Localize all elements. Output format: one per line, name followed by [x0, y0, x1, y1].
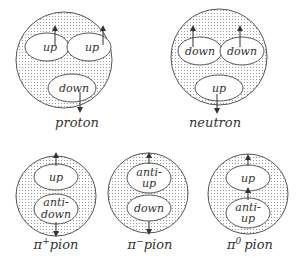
- particle-label: π0pion: [226, 236, 273, 252]
- pi-minus-diagram: anti- up down π−pion: [108, 153, 188, 252]
- quark-label: up: [49, 171, 63, 184]
- quark-label: up: [241, 212, 255, 225]
- neutron-diagram: down down up neutron: [171, 9, 267, 130]
- particle-label: proton: [55, 115, 99, 130]
- quark-label: down: [41, 208, 71, 221]
- pi-zero-diagram: up anti- up π0pion: [208, 154, 288, 252]
- particle-label: π+pion: [33, 236, 79, 252]
- quark-label: down: [134, 202, 164, 215]
- quark-label: down: [227, 45, 257, 58]
- quark-label: up: [241, 172, 255, 185]
- quark-label: up: [142, 177, 156, 190]
- quark-label: up: [43, 41, 57, 54]
- proton-diagram: up up down proton: [16, 12, 112, 130]
- quark-diagram: up up down proton down down up neutron u…: [0, 0, 297, 257]
- particle-label: π−pion: [127, 236, 173, 252]
- quark-label: up: [212, 82, 226, 95]
- quark-label: down: [185, 45, 215, 58]
- quark-label: up: [85, 41, 99, 54]
- particle-label: neutron: [189, 115, 241, 130]
- pi-plus-diagram: up anti- down π+pion: [16, 155, 96, 252]
- quark-label: down: [59, 82, 89, 95]
